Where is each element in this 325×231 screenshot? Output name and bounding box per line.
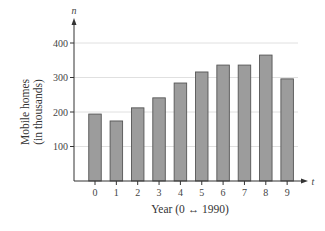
y-ticks: 100200300400 — [53, 38, 74, 153]
x-ticks: 0123456789 — [93, 181, 290, 198]
x-tick-label: 9 — [285, 187, 290, 198]
x-tick-label: 6 — [221, 187, 226, 198]
bars — [89, 55, 294, 181]
y-axis-arrow-icon — [72, 18, 77, 25]
x-tick-label: 2 — [135, 187, 140, 198]
y-axis-title: Mobile homes (in thousands) — [19, 78, 45, 145]
x-tick-label: 0 — [93, 187, 98, 198]
y-axis-title-line-2: (in thousands) — [32, 79, 45, 145]
x-tick-label: 5 — [199, 187, 204, 198]
x-tick-label: 8 — [263, 187, 268, 198]
bar — [238, 65, 251, 181]
y-axis-variable: n — [72, 5, 77, 16]
y-tick-label: 300 — [53, 72, 68, 83]
y-tick-label: 100 — [53, 141, 68, 152]
x-tick-label: 7 — [242, 187, 247, 198]
bar — [174, 83, 187, 181]
x-tick-label: 4 — [178, 187, 183, 198]
bar — [260, 55, 273, 181]
bar — [217, 65, 230, 181]
y-tick-label: 400 — [53, 38, 68, 49]
x-axis-variable: t — [312, 176, 315, 187]
y-tick-label: 200 — [53, 107, 68, 118]
x-tick-label: 3 — [157, 187, 162, 198]
bar — [89, 114, 102, 181]
bar — [110, 121, 123, 181]
axes: n t — [72, 5, 315, 187]
bar — [153, 98, 166, 181]
x-axis-title: Year (0 ↔ 1990) — [151, 203, 229, 216]
bar-chart: n t 100200300400 0123456789 Year (0 ↔ 19… — [0, 0, 325, 231]
bar — [131, 108, 144, 181]
x-tick-label: 1 — [114, 187, 119, 198]
x-axis-arrow-icon — [301, 179, 308, 184]
bar — [196, 72, 209, 181]
y-axis-title-line-1: Mobile homes — [19, 78, 31, 145]
bar — [281, 79, 294, 181]
